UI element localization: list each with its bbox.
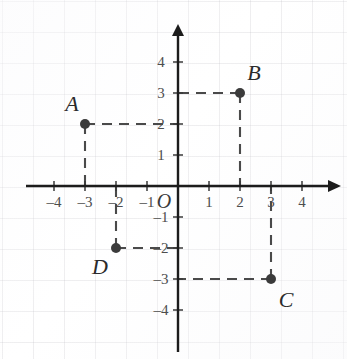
y-tick-label: –2 <box>154 240 169 257</box>
x-tick-label: –3 <box>78 194 93 211</box>
plot-canvas <box>0 0 347 359</box>
y-tick-label: 3 <box>157 85 165 102</box>
x-tick-label: –4 <box>47 194 62 211</box>
data-point-dot <box>80 119 90 129</box>
coordinate-plane-figure: –4–3–2–112344321–1–2–3–4OABCD <box>0 0 347 359</box>
data-point-dot <box>266 274 276 284</box>
y-axis-arrow-icon <box>172 24 184 36</box>
y-tick-label: –3 <box>154 271 169 288</box>
x-axis-arrow-icon <box>328 180 341 192</box>
x-tick-label: 3 <box>267 194 275 211</box>
x-tick-label: 2 <box>236 194 244 211</box>
x-tick-label: 1 <box>205 194 213 211</box>
y-tick-label: –4 <box>154 302 169 319</box>
y-tick-label: 1 <box>157 147 165 164</box>
x-tick-label: –1 <box>140 194 155 211</box>
origin-label: O <box>157 190 171 213</box>
data-point-dot <box>235 88 245 98</box>
y-tick-label: 4 <box>157 54 165 71</box>
y-tick-label: 2 <box>157 116 165 133</box>
x-tick-label: 4 <box>298 194 306 211</box>
x-tick-label: –2 <box>109 194 124 211</box>
point-label-b: B <box>247 60 260 86</box>
data-point-dot <box>111 243 121 253</box>
point-label-c: C <box>279 287 294 313</box>
point-label-a: A <box>65 91 78 117</box>
point-label-d: D <box>92 254 108 280</box>
